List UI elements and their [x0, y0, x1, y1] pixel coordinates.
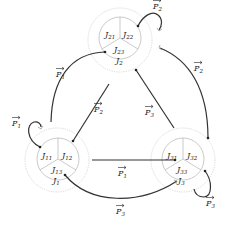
- part-j13-label: J13: [50, 165, 63, 175]
- node-j1-label: J1: [51, 176, 60, 186]
- part-j11-label: J11: [40, 151, 52, 161]
- edge-j11-self-loop: P1: [11, 116, 43, 148]
- node-j1: J11 J12 J13 J1: [25, 128, 89, 192]
- part-j32-label: J32: [185, 151, 198, 161]
- edge-label-p2-j1-j2: P2: [93, 105, 103, 115]
- edge-label-p1-j1-j2: P1: [55, 70, 65, 80]
- edge-label-p3-j2-j3: P3: [144, 108, 154, 118]
- edge-label-p2-self: P2: [152, 2, 162, 12]
- part-j23-label: J23: [112, 45, 125, 55]
- edge-label-p1-j1-j3: P1: [117, 169, 127, 179]
- edge-label-p1-self: P1: [11, 119, 21, 129]
- edge-j1-to-j31: P1: [92, 159, 176, 179]
- node-j2: J21 J22 J23 J2: [88, 8, 152, 72]
- edge-label-p3-j1-j3: P3: [115, 207, 125, 217]
- edge-j12-to-j2: P2: [72, 84, 109, 142]
- edge-label-p2-j3-j2: P2: [193, 64, 203, 74]
- node-j2-label: J2: [114, 56, 123, 66]
- part-j22-label: J22: [121, 30, 134, 40]
- edge-j33-self-loop: P3: [194, 170, 215, 209]
- part-j12-label: J12: [60, 151, 73, 161]
- edge-j23-to-j3: P3: [135, 69, 174, 128]
- edge-j13-to-j3: P3: [64, 174, 177, 217]
- edge-label-p3-self: P3: [205, 199, 215, 209]
- job-graph-diagram: J21 J22 J23 J2 J11 J12 J13 J1 J31 J32 J3…: [0, 0, 240, 227]
- edge-j32-to-j2: P2: [159, 45, 209, 139]
- part-j21-label: J21: [103, 30, 115, 40]
- part-j33-label: J33: [175, 165, 188, 175]
